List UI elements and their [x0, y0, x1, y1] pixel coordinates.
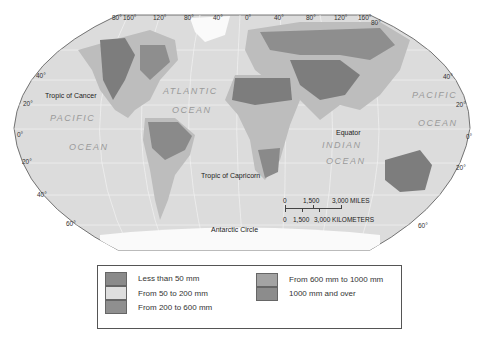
legend-swatch-50-200 [105, 286, 127, 300]
meridian-label: 40° [274, 14, 284, 21]
ocean-label-indian: INDIAN [322, 140, 362, 150]
legend-label: From 200 to 600 mm [138, 303, 212, 312]
parallel-label: 0° [17, 131, 23, 138]
scale-km-3000: 3,000 KILOMETERS [314, 216, 374, 223]
meridian-label: 80° [112, 14, 122, 21]
meridian-label: 80° [371, 19, 381, 26]
parallel-label: 40° [37, 191, 47, 198]
meridian-label: 120° [153, 14, 166, 21]
scale-km-1500: 1,500 [293, 216, 309, 223]
meridian-label: 160° [123, 14, 136, 21]
ocean-label-pacific: PACIFIC [412, 90, 457, 100]
parallel-label: 20° [22, 158, 32, 165]
parallel-label: 40° [36, 72, 46, 79]
legend-label: 1000 mm and over [289, 289, 356, 298]
world-precipitation-map: 80° 160° 120° 80° 40° 0° 40° 80° 120° 16… [0, 0, 482, 255]
legend-label: From 600 mm to 1000 mm [289, 275, 383, 284]
parallel-label: 20° [456, 101, 466, 108]
legend-label: Less than 50 mm [138, 274, 199, 283]
scale-miles-3000: 3,000 MILES [332, 197, 370, 204]
legend-label: From 50 to 200 mm [138, 289, 208, 298]
legend: Less than 50 mm From 50 to 200 mm From 2… [97, 265, 402, 329]
legend-swatch-600-1000 [256, 273, 278, 287]
ocean-label-atlantic: ATLANTIC [163, 86, 218, 96]
ocean-label-pacific: OCEAN [69, 142, 109, 152]
meridian-label: 0° [245, 14, 251, 21]
scale-km-0: 0 [283, 216, 287, 223]
legend-swatch-lt50 [105, 272, 127, 286]
parallel-label: 20° [23, 100, 33, 107]
parallel-label: 20° [456, 164, 466, 171]
ocean-label-atlantic: OCEAN [172, 105, 212, 115]
legend-swatch-200-600 [105, 300, 127, 314]
equator-label: Equator [336, 129, 361, 136]
parallel-label: 40° [443, 73, 453, 80]
scale-miles-1500: 1,500 [303, 197, 319, 204]
meridian-label: 160° [358, 14, 371, 21]
map-graphic [0, 0, 482, 255]
meridian-label: 80° [184, 14, 194, 21]
meridian-label: 40° [213, 14, 223, 21]
meridian-label: 120° [334, 14, 347, 21]
antarctic-circle-label: Antarctic Circle [211, 226, 258, 233]
parallel-label: 60° [66, 220, 76, 227]
meridian-label: 80° [306, 14, 316, 21]
parallel-label: 60° [418, 222, 428, 229]
ocean-label-pacific: PACIFIC [50, 113, 95, 123]
ocean-label-pacific: OCEAN [418, 118, 458, 128]
tropic-of-capricorn-label: Tropic of Capricorn [201, 172, 260, 179]
tropic-of-cancer-label: Tropic of Cancer [45, 92, 96, 99]
scale-miles-0: 0 [283, 197, 287, 204]
legend-swatch-1000-plus [256, 287, 278, 301]
ocean-label-indian: OCEAN [326, 156, 366, 166]
parallel-label: 0° [466, 133, 472, 140]
